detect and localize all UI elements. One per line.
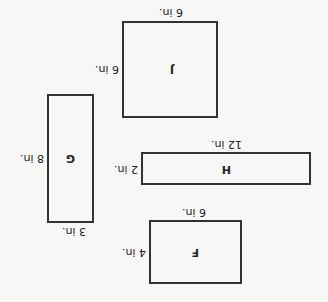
rectangle-h-height: 2 in.: [114, 163, 138, 176]
rectangle-f-width: 6 in.: [182, 206, 206, 219]
rectangle-j-width: 6 in.: [159, 6, 183, 19]
diagram-canvas: J 6 in. 6 in. G 3 in. 8 in. H 12 in. 2 i…: [0, 0, 328, 302]
rectangle-g-label: G: [66, 152, 75, 165]
rectangle-h-label: H: [222, 163, 231, 176]
rectangle-h-width: 12 in.: [211, 138, 242, 151]
rectangle-g-height: 8 in.: [20, 152, 44, 165]
rectangle-f-height: 4 in.: [122, 246, 146, 259]
rectangle-j-label: J: [170, 63, 174, 76]
rectangle-f-label: F: [191, 246, 199, 259]
rectangle-j-height: 6 in.: [95, 63, 119, 76]
rectangle-g-width: 3 in.: [62, 225, 86, 238]
